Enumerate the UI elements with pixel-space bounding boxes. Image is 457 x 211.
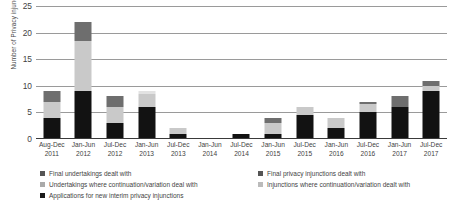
bar-slot — [257, 6, 289, 139]
table-row[interactable] — [107, 96, 124, 139]
bar-slot — [352, 6, 384, 139]
bar-slot — [99, 6, 131, 139]
table-row[interactable] — [138, 91, 155, 139]
bar-segment — [75, 41, 92, 92]
bar-slot — [36, 6, 68, 139]
x-tick-label: Jul-Dec2015 — [289, 141, 321, 158]
table-row[interactable] — [359, 102, 376, 139]
legend-swatch-icon — [40, 182, 45, 187]
y-tick-label: 15 — [23, 54, 32, 64]
legend-item[interactable]: Injunctions where continuation/variation… — [258, 181, 410, 188]
table-row[interactable] — [328, 118, 345, 139]
chart-legend: Final undertakings dealt withFinal priva… — [40, 170, 455, 204]
bar-segment — [138, 94, 155, 107]
bar-segment — [328, 118, 345, 129]
legend-item[interactable]: Applications for new interim privacy inj… — [40, 192, 183, 199]
legend-item[interactable]: Final undertakings dealt with — [40, 170, 131, 177]
bar-slot — [131, 6, 163, 139]
bar-segment — [359, 112, 376, 139]
bar-slot — [321, 6, 353, 139]
legend-swatch-icon — [40, 171, 45, 176]
x-axis-line — [36, 138, 447, 139]
legend-label: Final privacy injunctions dealt with — [267, 170, 365, 177]
x-axis-labels: Aug-Dec2011Jan-Jun2012Jul-Dec2012Jan-Jun… — [36, 141, 447, 165]
x-tick-label: Jul-Dec2012 — [99, 141, 131, 158]
bar-segment — [43, 102, 60, 118]
bar-segment — [43, 118, 60, 139]
table-row[interactable] — [391, 96, 408, 139]
legend-label: Final undertakings dealt with — [49, 170, 131, 177]
x-tick-label: Jan-Jun2016 — [321, 141, 353, 158]
bar-segment — [359, 104, 376, 112]
bar-segment — [75, 91, 92, 139]
legend-swatch-icon — [258, 182, 263, 187]
bar-segment — [391, 96, 408, 107]
bar-segment — [296, 115, 313, 139]
table-row[interactable] — [43, 91, 60, 139]
legend-item[interactable]: Final privacy injunctions dealt with — [258, 170, 365, 177]
bar-slot — [415, 6, 447, 139]
x-tick-label: Jul-Dec2016 — [352, 141, 384, 158]
legend-label: Undertakings where continuation/variatio… — [49, 181, 198, 188]
bar-slot — [226, 6, 258, 139]
legend-item[interactable]: Undertakings where continuation/variatio… — [40, 181, 198, 188]
bar-slot — [289, 6, 321, 139]
legend-label: Applications for new interim privacy inj… — [49, 192, 183, 199]
bar-slot — [194, 6, 226, 139]
x-tick-label: Aug-Dec2011 — [36, 141, 68, 158]
bar-segment — [265, 123, 282, 134]
y-tick-label: 25 — [23, 1, 32, 11]
y-tick-label: 0 — [27, 134, 32, 144]
x-tick-label: Jan-Jun2017 — [384, 141, 416, 158]
plot-area: 0510152025 — [36, 6, 447, 139]
bar-segment — [43, 91, 60, 102]
x-tick-label: Jul-Dec2017 — [415, 141, 447, 158]
bar-segment — [391, 107, 408, 139]
legend-swatch-icon — [40, 193, 45, 198]
y-axis-title: Number of Privacy injunction proceedings — [10, 0, 17, 83]
bar-segment — [107, 123, 124, 139]
x-tick-label: Jan-Jun2014 — [194, 141, 226, 158]
bar-segment — [138, 107, 155, 139]
bar-segment — [423, 91, 440, 139]
bar-series-container — [36, 6, 447, 139]
privacy-injunction-bar-chart: Number of Privacy injunction proceedings… — [0, 0, 457, 211]
legend-swatch-icon — [258, 171, 263, 176]
table-row[interactable] — [265, 118, 282, 139]
x-tick-label: Jan-Jun2015 — [257, 141, 289, 158]
bar-slot — [68, 6, 100, 139]
y-tick-label: 20 — [23, 28, 32, 38]
bar-segment — [107, 96, 124, 107]
bar-slot — [162, 6, 194, 139]
x-tick-label: Jan-Jun2013 — [131, 141, 163, 158]
x-tick-label: Jul-Dec2014 — [226, 141, 258, 158]
table-row[interactable] — [423, 81, 440, 140]
bar-segment — [75, 22, 92, 41]
x-tick-label: Jan-Jun2012 — [68, 141, 100, 158]
y-tick-label: 5 — [27, 107, 32, 117]
bar-segment — [107, 107, 124, 123]
legend-label: Injunctions where continuation/variation… — [267, 181, 410, 188]
bar-slot — [384, 6, 416, 139]
table-row[interactable] — [75, 22, 92, 139]
table-row[interactable] — [296, 107, 313, 139]
x-tick-label: Jul-Dec2013 — [162, 141, 194, 158]
bar-segment — [296, 107, 313, 115]
y-tick-label: 10 — [23, 81, 32, 91]
